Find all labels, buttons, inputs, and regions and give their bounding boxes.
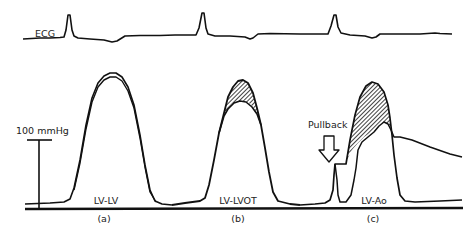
panel-a-trace-1 [25,73,172,205]
panel-a-trace-2 [74,77,156,202]
pullback-arrow-icon [319,136,339,162]
panel-b-label: LV-LVOT [219,196,256,206]
panel-a-label: LV-LV [94,196,118,206]
zero-baseline [25,208,463,209]
panel-a-tag: (a) [97,214,110,224]
pullback-label: Pullback [308,120,347,130]
pressure-tracing-figure: ECG 100 mmHg Pullback LV-LV (a) LV-LVOT … [0,0,468,236]
panel-b-tag: (b) [231,214,244,224]
panel-c-tag: (c) [367,214,380,224]
scale-label: 100 mmHg [16,126,69,136]
panel-c-label: LV-Ao [361,196,387,206]
ecg-trace [23,13,452,42]
ecg-label: ECG [35,29,55,39]
scale-bar [27,140,52,209]
